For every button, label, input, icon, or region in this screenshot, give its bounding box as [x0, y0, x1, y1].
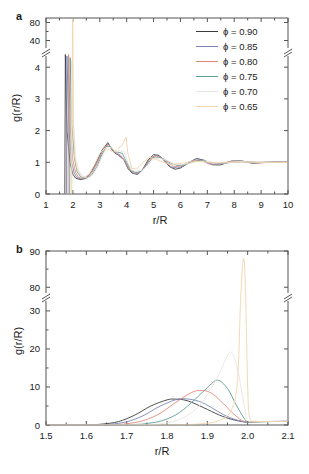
legend-item: ϕ = 0.90: [196, 24, 258, 39]
y-tick-label: 30: [29, 305, 40, 316]
y-tick-label: 90: [29, 246, 40, 257]
x-tick-label: 9: [258, 199, 263, 210]
series-line: [46, 390, 288, 425]
x-tick-label: 1: [43, 199, 48, 210]
x-tick-label: 3: [97, 199, 102, 210]
y-tick-label: 0: [35, 420, 40, 431]
y-tick-label: 4: [35, 62, 40, 73]
panel-a: a 12345678910012344080 r/R g(r/R) ϕ = 0.…: [0, 0, 309, 237]
x-tick-label: 1.6: [80, 430, 93, 441]
figure-container: a 12345678910012344080 r/R g(r/R) ϕ = 0.…: [0, 0, 309, 474]
legend-item: ϕ = 0.80: [196, 54, 258, 69]
x-tick-label: 1.9: [201, 430, 214, 441]
legend-item: ϕ = 0.65: [196, 99, 258, 114]
axis-break-mark: [42, 293, 50, 302]
x-tick-label: 4: [124, 199, 129, 210]
axis-break-mark: [284, 48, 292, 57]
plot-frame: [46, 251, 288, 425]
panel-b: b 1.51.61.71.81.92.02.101020308090 r/R g…: [0, 237, 309, 474]
x-tick-label: 5: [151, 199, 156, 210]
x-tick-label: 10: [283, 199, 294, 210]
x-tick-label: 1.8: [160, 430, 173, 441]
legend-swatch: [196, 31, 218, 32]
panel-b-xlabel: r/R: [112, 445, 212, 457]
legend-swatch: [196, 76, 218, 77]
legend-swatch: [196, 61, 218, 62]
curves: [46, 258, 288, 425]
x-tick-label: 2: [70, 199, 75, 210]
panel-a-ylabel: g(r/R): [10, 78, 22, 138]
y-tick-label: 80: [29, 17, 40, 28]
y-tick-label: 40: [29, 35, 40, 46]
legend-item: ϕ = 0.75: [196, 69, 258, 84]
legend-label: ϕ = 0.75: [223, 71, 258, 82]
legend: ϕ = 0.90ϕ = 0.85ϕ = 0.80ϕ = 0.75ϕ = 0.70…: [196, 24, 258, 114]
panel-a-xlabel: r/R: [110, 214, 210, 226]
x-tick-label: 1.7: [120, 430, 133, 441]
panel-a-plot: 12345678910012344080: [0, 0, 309, 237]
x-tick-label: 2.1: [281, 430, 294, 441]
y-tick-label: 10: [29, 381, 40, 392]
legend-label: ϕ = 0.70: [223, 86, 258, 97]
x-tick-label: 1.5: [39, 430, 52, 441]
x-tick-label: 7: [205, 199, 210, 210]
legend-label: ϕ = 0.85: [223, 41, 258, 52]
axis-break-mark: [284, 293, 292, 302]
y-tick-label: 3: [35, 93, 40, 104]
x-tick-label: 2.0: [241, 430, 254, 441]
y-tick-label: 20: [29, 343, 40, 354]
legend-label: ϕ = 0.65: [223, 101, 258, 112]
legend-swatch: [196, 46, 218, 47]
panel-b-ylabel: g(r/R): [12, 311, 24, 371]
legend-label: ϕ = 0.80: [223, 56, 258, 67]
legend-item: ϕ = 0.85: [196, 39, 258, 54]
series-line: [46, 352, 288, 425]
panel-b-plot: 1.51.61.71.81.92.02.101020308090: [0, 237, 309, 474]
y-tick-label: 80: [29, 282, 40, 293]
legend-label: ϕ = 0.90: [223, 26, 258, 37]
x-tick-label: 8: [232, 199, 237, 210]
legend-item: ϕ = 0.70: [196, 84, 258, 99]
y-tick-label: 2: [35, 125, 40, 136]
legend-swatch: [196, 106, 218, 107]
y-tick-label: 0: [35, 189, 40, 200]
axis-break-mark: [42, 48, 50, 57]
y-tick-label: 1: [35, 157, 40, 168]
x-tick-label: 6: [178, 199, 183, 210]
legend-swatch: [196, 91, 218, 92]
